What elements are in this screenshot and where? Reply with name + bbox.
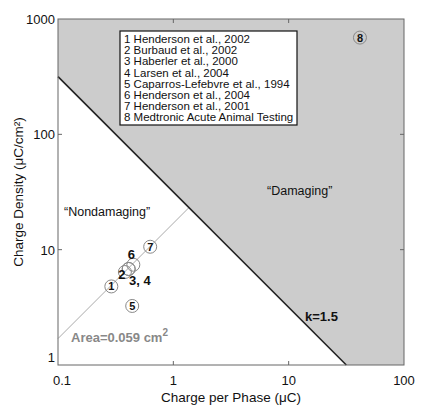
data-point-5: 5 — [126, 299, 139, 312]
y-tick-label: 1 — [48, 350, 55, 365]
legend-item: 7 Henderson et al., 2001 — [124, 100, 250, 112]
legend-item: 6 Henderson et al., 2004 — [124, 89, 251, 101]
legend: 1 Henderson et al., 20022 Burbaud et al.… — [120, 31, 297, 125]
y-tick-label: 100 — [33, 127, 55, 142]
damaging-label: “Damaging” — [267, 184, 332, 198]
data-point-1: 1 — [105, 280, 118, 293]
chart: 0.11101001101001000 Charge Density (μC/c… — [0, 0, 427, 419]
point-label-6: 6 — [128, 247, 135, 262]
x-tick-label: 10 — [281, 373, 295, 388]
k-line-label: k=1.5 — [305, 309, 338, 324]
x-tick-label: 0.1 — [53, 373, 71, 388]
point-number: 7 — [147, 241, 153, 253]
nondamaging-label: “Nondamaging” — [64, 205, 150, 219]
legend-item: 2 Burbaud et al., 2002 — [124, 44, 237, 56]
legend-item: 5 Caparros-Lefebvre et al., 1994 — [124, 78, 290, 90]
y-tick-label: 1000 — [26, 12, 55, 27]
x-tick-label: 1 — [170, 373, 177, 388]
legend-item: 1 Henderson et al., 2002 — [124, 33, 250, 45]
legend-item: 3 Haberler et al., 2000 — [124, 55, 238, 67]
y-tick-label: 10 — [41, 243, 55, 258]
point-number: 5 — [129, 300, 135, 312]
legend-item: 8 Medtronic Acute Animal Testing — [124, 111, 293, 123]
x-axis-label: Charge per Phase (μC) — [161, 390, 301, 405]
point-number: 1 — [108, 280, 114, 292]
point-number: 8 — [357, 32, 363, 44]
data-point-7: 7 — [144, 240, 157, 253]
x-tick-label: 100 — [393, 373, 415, 388]
point-label-3-4: 3, 4 — [129, 273, 151, 288]
y-axis-label: Charge Density (μC/cm²) — [11, 117, 26, 267]
point-label-2: 2 — [118, 267, 125, 282]
area-line-label: Area=0.059 cm2 — [71, 327, 168, 345]
legend-item: 4 Larsen et al., 2004 — [124, 67, 229, 79]
